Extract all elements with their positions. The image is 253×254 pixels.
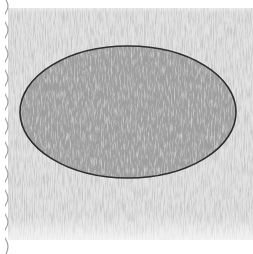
left-margin xyxy=(0,0,5,254)
ellipse-shape xyxy=(20,46,236,178)
sketch-canvas xyxy=(0,0,253,254)
